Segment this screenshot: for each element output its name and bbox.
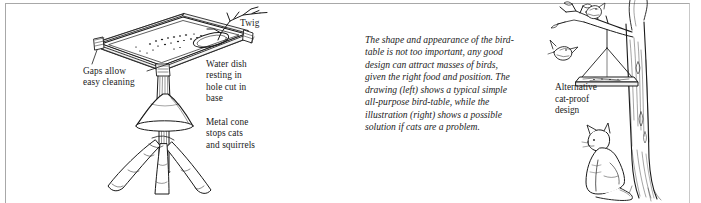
left-illustration-panel: Twig Gaps allow easy cleaning Water dish… — [8, 4, 338, 203]
body-paragraph: The shape and appearance of the bird-tab… — [365, 34, 517, 134]
label-metal-cone: Metal cone stops cats and squirrels — [206, 117, 255, 151]
tree-trunk — [625, 22, 661, 201]
hanging-cat-proof-bird-table-drawing — [520, 0, 695, 203]
body-text-panel: The shape and appearance of the bird-tab… — [365, 34, 517, 134]
figure-page: Twig Gaps allow easy cleaning Water dish… — [0, 0, 701, 203]
metal-cone — [136, 94, 193, 131]
pedestal-bird-table-drawing — [8, 4, 338, 203]
suspension-wires — [582, 30, 632, 77]
flying-bird — [548, 40, 578, 60]
overhanging-branch — [551, 0, 647, 37]
splayed-tripod-legs — [108, 136, 211, 194]
sitting-cat — [582, 123, 632, 200]
right-illustration-panel: Alternative cat-proof design — [520, 0, 695, 203]
label-water-dish: Water dish resting in hole cut in base — [206, 59, 247, 105]
label-twig: Twig — [240, 18, 259, 29]
label-alternative-cat-proof-design: Alternative cat-proof design — [555, 82, 597, 117]
label-gaps-allow-easy-cleaning: Gaps allow easy cleaning — [83, 66, 135, 89]
perched-bird — [586, 3, 605, 19]
